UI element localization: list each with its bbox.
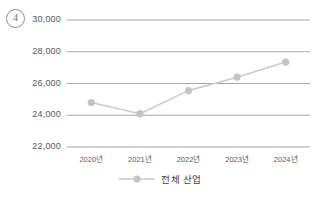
chart-figure: 4 30,00028,00026,00024,00022,000 2020년20… (0, 0, 321, 199)
data-point-marker (136, 110, 143, 117)
y-tick-label: 22,000 (17, 141, 61, 151)
x-tick-label: 2022년 (165, 153, 213, 164)
y-tick-label: 24,000 (17, 109, 61, 119)
data-point-marker (282, 58, 289, 65)
chart-legend: 전체 산업 (0, 172, 321, 186)
data-point-marker (234, 74, 241, 81)
legend-label: 전체 산업 (161, 172, 202, 186)
line-marker-icon (119, 173, 155, 185)
x-tick-label: 2023년 (213, 153, 261, 164)
x-tick-label: 2020년 (67, 153, 115, 164)
data-point-marker (88, 99, 95, 106)
x-tick-label: 2024년 (262, 153, 310, 164)
data-point-marker (185, 87, 192, 94)
gridlines-group (67, 20, 310, 147)
y-tick-label: 26,000 (17, 78, 61, 88)
y-tick-label: 30,000 (17, 14, 61, 24)
y-tick-label: 28,000 (17, 46, 61, 56)
line-chart-plot (0, 0, 321, 199)
x-tick-label: 2021년 (116, 153, 164, 164)
